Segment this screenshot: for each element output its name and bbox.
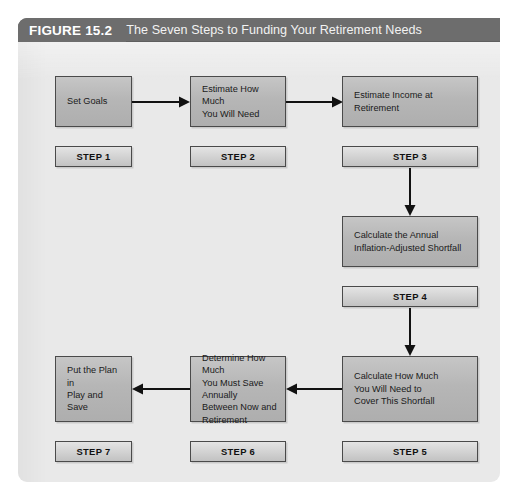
text-line: Estimate How Much — [202, 84, 259, 106]
step-label-5: STEP 5 — [342, 441, 478, 462]
process-box-set-goals[interactable]: Set Goals — [55, 76, 132, 127]
process-box-put-plan-in-play[interactable]: Put the Plan in Play and Save — [55, 356, 132, 422]
step-label-7: STEP 7 — [55, 441, 132, 462]
arrow-down-step3-box4 — [403, 168, 417, 216]
process-box-text: Calculate How Much You Will Need to Cove… — [354, 370, 438, 407]
step-label-text: STEP 1 — [77, 151, 111, 162]
arrow-left-box6-box7 — [132, 382, 190, 396]
text-line: Put the Plan in — [67, 365, 117, 387]
process-box-text: Put the Plan in Play and Save — [67, 364, 125, 414]
figure-title: The Seven Steps to Funding Your Retireme… — [126, 23, 422, 37]
process-box-cover-shortfall[interactable]: Calculate How Much You Will Need to Cove… — [342, 356, 478, 422]
text-line: You Will Need — [202, 109, 259, 119]
step-label-text: STEP 3 — [393, 151, 427, 162]
process-box-text: Estimate How Much You Will Need — [202, 83, 279, 120]
text-line: Inflation-Adjusted Shortfall — [354, 243, 461, 253]
figure-header-text: FIGURE 15.2 The Seven Steps to Funding Y… — [18, 18, 500, 42]
text-line: Estimate Income at — [354, 90, 433, 100]
step-label-2: STEP 2 — [190, 146, 286, 167]
text-line: Retirement — [354, 103, 399, 113]
process-box-annual-shortfall[interactable]: Calculate the Annual Inflation-Adjusted … — [342, 216, 478, 267]
text-line: Cover This Shortfall — [354, 396, 435, 406]
text-line: Set Goals — [67, 96, 107, 106]
text-line: Calculate How Much — [354, 371, 438, 381]
step-label-text: STEP 2 — [221, 151, 255, 162]
process-box-determine-annual-savings[interactable]: Determine How Much You Must Save Annuall… — [190, 356, 286, 422]
step-label-text: STEP 6 — [221, 446, 255, 457]
arrow-right-box2-box3 — [286, 95, 343, 109]
process-box-estimate-need[interactable]: Estimate How Much You Will Need — [190, 76, 286, 127]
step-label-3: STEP 3 — [342, 146, 478, 167]
figure-root: FIGURE 15.2 The Seven Steps to Funding Y… — [0, 0, 529, 500]
process-box-text: Set Goals — [67, 95, 107, 107]
arrow-right-box1-box2 — [132, 95, 190, 109]
step-label-text: STEP 7 — [77, 446, 111, 457]
step-label-6: STEP 6 — [190, 441, 286, 462]
process-box-text: Determine How Much You Must Save Annuall… — [202, 352, 279, 426]
step-label-text: STEP 4 — [393, 291, 427, 302]
text-line: Between Now and — [202, 402, 277, 412]
arrow-down-step4-box5 — [403, 308, 417, 356]
arrow-left-box5-box6 — [286, 382, 343, 396]
text-line: You Will Need to — [354, 384, 422, 394]
text-line: Calculate the Annual — [354, 230, 438, 240]
process-box-estimate-income[interactable]: Estimate Income at Retirement — [342, 76, 478, 127]
step-label-4: STEP 4 — [342, 286, 478, 307]
figure-label: FIGURE 15.2 — [29, 23, 112, 38]
step-label-1: STEP 1 — [55, 146, 132, 167]
process-box-text: Estimate Income at Retirement — [354, 89, 433, 114]
process-box-text: Calculate the Annual Inflation-Adjusted … — [354, 229, 461, 254]
text-line: Retirement — [202, 415, 247, 425]
text-line: Determine How Much — [202, 353, 265, 375]
text-line: You Must Save Annually — [202, 378, 263, 400]
text-line: Play and Save — [67, 390, 103, 412]
step-label-text: STEP 5 — [393, 446, 427, 457]
